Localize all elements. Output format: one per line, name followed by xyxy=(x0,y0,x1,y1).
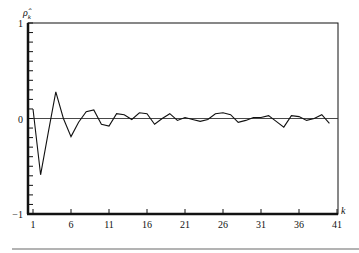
y-axis-label: ρ̂k xyxy=(22,7,32,21)
x-tick-label: 41 xyxy=(332,219,342,230)
x-axis-label: k xyxy=(341,205,346,216)
x-axis-tick-labels: 1611162126313641 xyxy=(31,219,343,230)
acf-series-line xyxy=(33,92,329,175)
x-tick-label: 26 xyxy=(218,219,228,230)
acf-chart: 10−1 1611162126313641 ρ̂k k xyxy=(0,0,359,253)
y-tick-label: 1 xyxy=(18,18,23,29)
x-tick-label: 11 xyxy=(104,219,114,230)
y-axis-ticks xyxy=(28,23,33,214)
x-tick-label: 31 xyxy=(256,219,266,230)
x-tick-label: 36 xyxy=(294,219,304,230)
y-axis-label-subscript: k xyxy=(28,13,32,21)
x-tick-label: 16 xyxy=(142,219,152,230)
y-tick-label: −1 xyxy=(12,209,23,220)
x-tick-label: 21 xyxy=(180,219,190,230)
y-tick-label: 0 xyxy=(18,114,23,125)
y-axis-tick-labels: 10−1 xyxy=(12,18,23,220)
x-tick-label: 1 xyxy=(31,219,36,230)
x-tick-label: 6 xyxy=(69,219,74,230)
